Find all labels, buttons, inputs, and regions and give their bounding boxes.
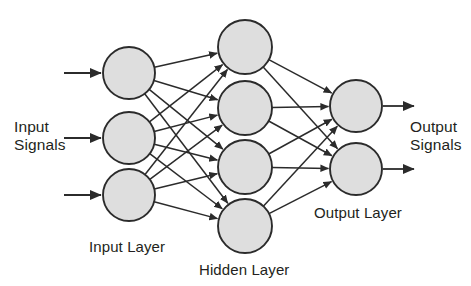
edge-hidden1-output1 bbox=[269, 60, 332, 93]
hidden-node-1 bbox=[218, 20, 272, 74]
hidden-to-output-edges bbox=[263, 60, 337, 214]
neural-network-diagram: Input Signals Output Signals Input Layer… bbox=[0, 0, 471, 286]
edge-input1-hidden1 bbox=[154, 53, 217, 67]
edge-input3-hidden3 bbox=[154, 174, 217, 189]
edge-input2-hidden1 bbox=[149, 65, 222, 122]
input-signal-arrows bbox=[64, 73, 101, 195]
input-node-1 bbox=[103, 47, 155, 99]
input-signals-label: Input Signals bbox=[14, 118, 66, 154]
hidden-node-4 bbox=[218, 199, 272, 253]
edge-hidden3-output2 bbox=[272, 167, 329, 168]
edge-hidden3-output1 bbox=[269, 119, 332, 154]
output-node-2 bbox=[330, 143, 382, 195]
edge-hidden2-output1 bbox=[272, 106, 329, 107]
edge-input1-hidden4 bbox=[145, 94, 228, 204]
output-signals-label: Output Signals bbox=[410, 118, 462, 154]
input-layer-nodes bbox=[103, 47, 155, 221]
output-node-1 bbox=[330, 80, 382, 132]
input-to-hidden-edges bbox=[145, 53, 228, 218]
output-layer-nodes bbox=[330, 80, 382, 195]
edge-input3-hidden4 bbox=[154, 202, 217, 219]
edge-input1-hidden2 bbox=[154, 81, 218, 100]
edge-input3-hidden2 bbox=[150, 125, 222, 179]
input-layer-label: Input Layer bbox=[89, 238, 165, 255]
hidden-layer-label: Hidden Layer bbox=[199, 261, 289, 278]
hidden-layer-nodes bbox=[218, 20, 272, 253]
input-node-3 bbox=[103, 169, 155, 221]
output-layer-label: Output Layer bbox=[314, 204, 402, 221]
input-node-2 bbox=[103, 112, 155, 164]
edge-hidden2-output2 bbox=[269, 121, 332, 156]
network-graphic bbox=[0, 0, 471, 286]
hidden-node-3 bbox=[218, 140, 272, 194]
hidden-node-2 bbox=[218, 81, 272, 135]
